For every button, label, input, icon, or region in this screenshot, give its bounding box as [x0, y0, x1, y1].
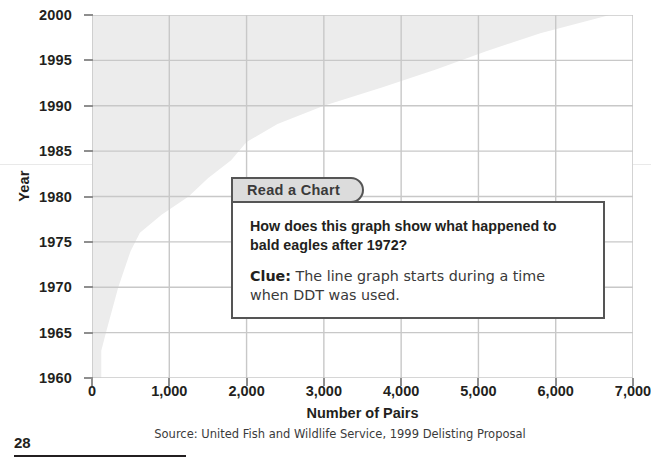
y-axis-tick-mark	[84, 59, 93, 61]
x-axis-tick-mark	[323, 378, 325, 386]
y-axis-tick-mark	[84, 14, 93, 16]
y-axis-tick-labels: 196019651970197519801985199019952000	[10, 0, 72, 459]
x-axis-tick-label: 4,000	[383, 384, 419, 399]
x-axis-tick-label: 1,000	[151, 384, 187, 399]
y-axis-tick-label: 1965	[10, 326, 72, 341]
y-axis-tick-label: 1970	[10, 280, 72, 295]
y-axis-tick-mark	[84, 196, 93, 198]
y-axis-tick-label: 1990	[10, 99, 72, 114]
x-axis-tick-label: 3,000	[306, 384, 342, 399]
callout-question: How does this graph show what happened t…	[250, 217, 587, 255]
page-number: 28	[14, 434, 31, 451]
callout-tab: Read a Chart	[231, 177, 364, 203]
x-axis-tick-label: 6,000	[538, 384, 574, 399]
chart-figure: 196019651970197519801985199019952000 Yea…	[0, 0, 651, 459]
read-a-chart-callout: Read a Chart How does this graph show wh…	[231, 177, 605, 319]
x-axis-tick-mark	[632, 378, 634, 386]
x-axis-tick-label: 0	[88, 384, 96, 399]
y-axis-tick-mark	[84, 332, 93, 334]
x-axis-tick-mark	[555, 378, 557, 386]
y-axis-tick-label: 1960	[10, 371, 72, 386]
callout-clue-label: Clue:	[250, 268, 291, 284]
y-axis-tick-label: 1995	[10, 53, 72, 68]
callout-clue: Clue: The line graph starts during a tim…	[250, 267, 587, 305]
callout-tab-label: Read a Chart	[247, 182, 340, 198]
y-axis-tick-label: 1975	[10, 235, 72, 250]
x-axis-tick-label: 5,000	[460, 384, 496, 399]
x-axis-tick-mark	[477, 378, 479, 386]
source-note: Source: United Fish and Wildlife Service…	[60, 427, 620, 441]
y-axis-tick-mark	[84, 241, 93, 243]
y-axis-tick-mark	[84, 150, 93, 152]
x-axis-tick-label: 7,000	[615, 384, 651, 399]
page-rule	[14, 455, 186, 457]
x-axis-tick-mark	[400, 378, 402, 386]
x-axis-tick-mark	[246, 378, 248, 386]
y-axis-tick-mark	[84, 105, 93, 107]
x-axis-tick-mark	[91, 378, 93, 386]
x-axis-tick-mark	[168, 378, 170, 386]
x-axis-tick-label: 2,000	[228, 384, 264, 399]
y-axis-title: Year	[16, 156, 32, 216]
callout-body: How does this graph show what happened t…	[231, 201, 605, 319]
y-axis-tick-mark	[84, 286, 93, 288]
callout-clue-text: The line graph starts during a time when…	[250, 268, 545, 303]
y-axis-tick-label: 2000	[10, 8, 72, 23]
x-axis-title: Number of Pairs	[92, 405, 633, 421]
